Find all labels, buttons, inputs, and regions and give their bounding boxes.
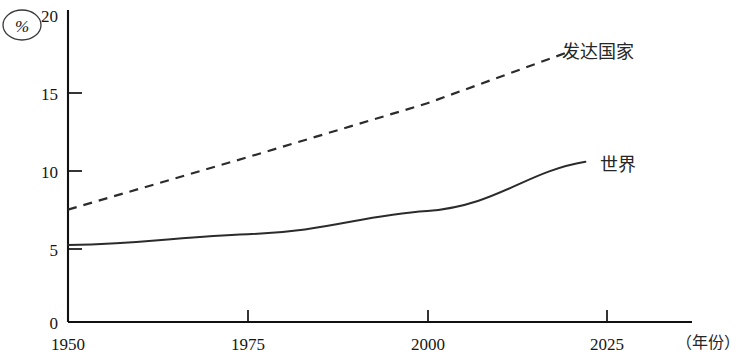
series-line-world [68,162,585,245]
x-tick-label-2025: 2025 [590,335,624,354]
y-tick-label-0: 0 [50,314,59,333]
line-chart-svg: % 20 15 10 5 0 1950 1975 2000 2025 （年份） … [0,0,752,358]
y-tick-label-20: 20 [41,7,58,26]
x-tick-label-1950: 1950 [51,335,85,354]
y-axis-unit-label: % [15,17,29,36]
x-axis-title: （年份） [676,333,740,352]
x-tick-label-2000: 2000 [411,335,445,354]
y-tick-label-15: 15 [41,85,58,104]
x-tick-label-1975: 1975 [231,335,265,354]
series-label-world: 世界 [600,154,636,175]
y-tick-label-10: 10 [41,163,58,182]
series-line-developed [68,51,571,210]
chart-figure: % 20 15 10 5 0 1950 1975 2000 2025 （年份） … [0,0,752,358]
y-axis-unit-group: % [3,10,41,40]
y-tick-label-5: 5 [50,241,59,260]
series-label-developed: 发达国家 [562,41,634,62]
